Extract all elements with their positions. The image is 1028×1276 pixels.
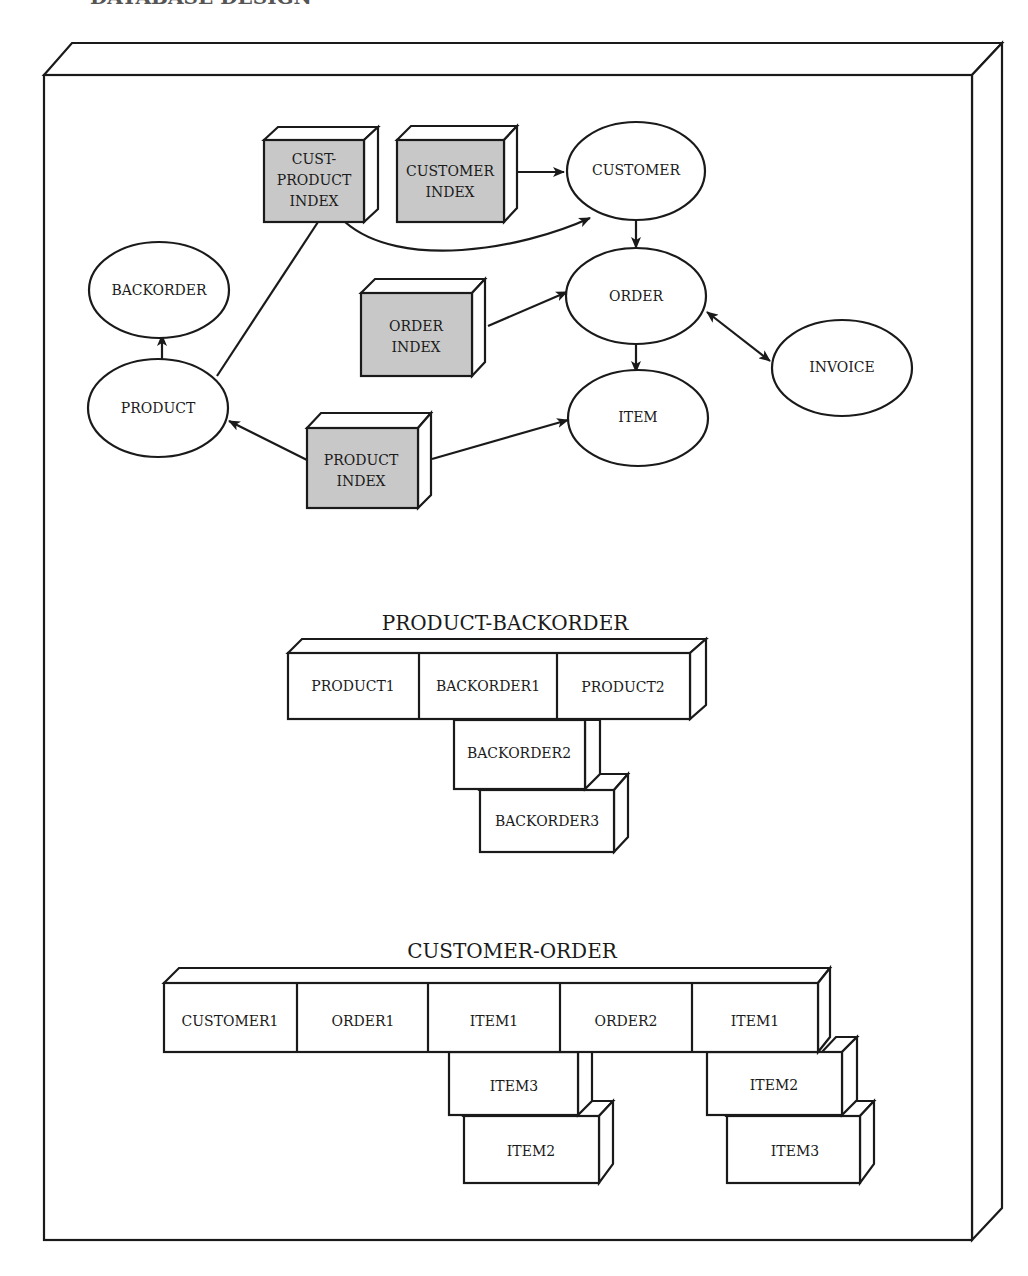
segment-backorder3: BACKORDER3	[495, 813, 599, 829]
segment-item3-right: ITEM3	[771, 1143, 819, 1159]
svg-text:INVOICE: INVOICE	[809, 359, 875, 375]
segment-item2-left: ITEM2	[507, 1143, 555, 1159]
svg-text:INDEX: INDEX	[336, 473, 385, 489]
segment-backorder1: BACKORDER1	[436, 678, 540, 694]
svg-text:ITEM: ITEM	[618, 409, 657, 425]
segment-item1-second: ITEM1	[731, 1013, 779, 1029]
index-customer: CUSTOMER INDEX	[397, 126, 517, 222]
segment-product1: PRODUCT1	[311, 678, 394, 694]
svg-text:CUSTOMER: CUSTOMER	[406, 163, 494, 179]
svg-text:ORDER: ORDER	[389, 318, 443, 334]
database-structure-diagram: DATABASE DESIGN CUST- PRODUCT INDEX CUST…	[0, 0, 1028, 1276]
svg-text:CUSTOMER: CUSTOMER	[592, 162, 680, 178]
svg-text:INDEX: INDEX	[425, 184, 474, 200]
svg-text:ORDER: ORDER	[609, 288, 663, 304]
product-backorder-title: PRODUCT-BACKORDER	[382, 611, 630, 635]
segment-customer1: CUSTOMER1	[182, 1013, 279, 1029]
index-cust-product: CUST- PRODUCT INDEX	[264, 127, 378, 222]
index-label-line3: INDEX	[289, 193, 338, 209]
segment-backorder2: BACKORDER2	[467, 745, 571, 761]
index-label-line2: PRODUCT	[277, 172, 352, 188]
record-backorder: BACKORDER	[89, 242, 229, 338]
customer-order-title: CUSTOMER-ORDER	[407, 939, 618, 963]
svg-text:PRODUCT: PRODUCT	[324, 452, 399, 468]
segment-order1: ORDER1	[332, 1013, 395, 1029]
record-customer: CUSTOMER	[567, 122, 705, 220]
segment-item2-right: ITEM2	[750, 1077, 798, 1093]
index-order: ORDER INDEX	[361, 279, 485, 376]
record-invoice: INVOICE	[772, 320, 912, 416]
record-product: PRODUCT	[88, 359, 228, 457]
record-order: ORDER	[566, 248, 706, 344]
svg-text:BACKORDER: BACKORDER	[111, 282, 207, 298]
segment-order2: ORDER2	[595, 1013, 658, 1029]
page-header: DATABASE DESIGN	[90, 0, 312, 9]
index-label-line1: CUST-	[292, 151, 337, 167]
segment-item3-left: ITEM3	[490, 1078, 538, 1094]
svg-text:INDEX: INDEX	[391, 339, 440, 355]
segment-product2: PRODUCT2	[581, 679, 664, 695]
record-item: ITEM	[568, 370, 708, 466]
segment-item1: ITEM1	[470, 1013, 518, 1029]
index-product: PRODUCT INDEX	[307, 413, 431, 508]
svg-text:PRODUCT: PRODUCT	[121, 400, 196, 416]
